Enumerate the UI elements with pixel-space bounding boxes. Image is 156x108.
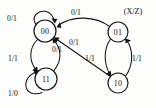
edge-path-10-00 — [56, 39, 111, 77]
state-label-01: 01 — [114, 28, 122, 37]
transition-label-01-10: 1/1 — [85, 54, 95, 63]
state-label-10: 10 — [114, 79, 122, 88]
transition-10-to-00[interactable] — [54, 37, 111, 76]
state-node-01[interactable]: 01 — [108, 22, 128, 42]
state-diagram-canvas: 00 01 11 10 0/1 0/1 1/1 0/1 0/1 1/1 1/1 … — [0, 0, 156, 108]
state-node-00[interactable]: 00 — [34, 20, 56, 42]
state-node-11[interactable]: 11 — [35, 68, 57, 90]
arrowhead-01-00 — [56, 22, 61, 28]
transition-00-to-11[interactable] — [31, 40, 38, 73]
transition-label-10-00: 0/1 — [69, 38, 79, 47]
transition-label-00-self: 0/1 — [7, 14, 17, 23]
transition-01-to-10[interactable] — [105, 39, 111, 76]
transition-10-to-01[interactable] — [125, 38, 131, 75]
transition-11-to-00[interactable] — [52, 38, 60, 70]
legend-input-output-notation: (X/Z) — [124, 7, 143, 16]
edge-path-10-01 — [126, 40, 132, 76]
fsm-svg: 00 01 11 10 0/1 0/1 1/1 0/1 0/1 1/1 1/1 … — [0, 0, 156, 108]
state-label-00: 00 — [41, 27, 49, 36]
transition-label-11-self: 1/0 — [8, 89, 18, 98]
transition-label-00-11: 1/1 — [8, 54, 18, 63]
edge-path-01-10 — [105, 39, 110, 75]
transition-label-11-00: 0/1 — [52, 45, 62, 54]
state-node-10[interactable]: 10 — [108, 73, 128, 93]
transition-01-to-00[interactable] — [56, 18, 109, 28]
edge-path-00-11 — [31, 40, 38, 71]
transition-label-01-00: 0/1 — [71, 8, 81, 17]
edge-path-01-00 — [59, 18, 110, 26]
state-label-11: 11 — [42, 75, 50, 84]
transition-label-10-01: 1/1 — [132, 54, 142, 63]
